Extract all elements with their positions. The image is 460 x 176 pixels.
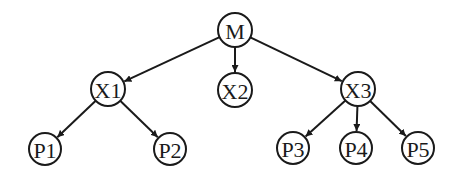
node-label: M — [225, 19, 245, 44]
node-p4: P4 — [340, 132, 372, 164]
node-label: P5 — [406, 137, 429, 162]
node-x3: X3 — [341, 72, 375, 106]
node-label: P3 — [281, 137, 304, 162]
tree-diagram: MX1X2X3P1P2P3P4P5 — [0, 0, 460, 176]
node-label: P4 — [344, 137, 367, 162]
node-label: P1 — [33, 138, 56, 163]
edge-x3-to-p4 — [357, 106, 358, 131]
node-x2: X2 — [218, 73, 252, 107]
edge-x3-to-p3 — [306, 100, 346, 136]
node-label: X2 — [222, 79, 249, 104]
node-p3: P3 — [277, 132, 309, 164]
edge-x3-to-p5 — [370, 101, 406, 136]
node-label: X1 — [95, 78, 122, 103]
nodes-group: MX1X2X3P1P2P3P4P5 — [29, 13, 434, 165]
node-label: X3 — [345, 78, 372, 103]
edge-m-to-x1 — [124, 37, 219, 81]
edge-x1-to-p1 — [57, 101, 95, 138]
node-p1: P1 — [29, 133, 61, 165]
node-m: M — [218, 13, 252, 47]
node-x1: X1 — [91, 72, 125, 106]
node-p5: P5 — [402, 132, 434, 164]
node-label: P2 — [158, 138, 181, 163]
edge-m-to-x3 — [250, 37, 341, 81]
node-p2: P2 — [154, 133, 186, 165]
edge-x1-to-p2 — [120, 101, 158, 137]
